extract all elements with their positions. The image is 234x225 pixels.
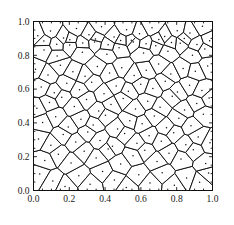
voronoi-seed-point [205,163,207,165]
voronoi-seed-point [82,42,84,44]
voronoi-seed-point [201,90,203,92]
x-tick-label: 1.0 [207,194,219,204]
voronoi-seed-point [167,50,169,52]
voronoi-seed-point [129,120,131,122]
voronoi-seed-point [43,49,45,51]
voronoi-seed-point [89,184,91,186]
y-tick-label: 0.2 [18,152,30,162]
voronoi-seed-point [101,26,103,28]
voronoi-seed-point [37,35,39,37]
voronoi-seed-point [133,75,135,77]
voronoi-seed-point [192,54,194,56]
voronoi-seed-point [84,76,86,78]
voronoi-seed-point [152,88,154,90]
voronoi-seed-point [159,106,161,108]
voronoi-seed-point [102,171,104,173]
voronoi-seed-point [130,40,132,42]
x-tick-label: 0.6 [135,194,147,204]
voronoi-seed-point [94,41,96,43]
y-tick-label: 0.0 [18,186,30,196]
voronoi-seed-point [184,109,186,111]
voronoi-seed-point [176,30,178,32]
voronoi-seed-point [138,174,140,176]
voronoi-seed-point [146,69,148,71]
voronoi-seed-point [79,89,81,91]
voronoi-seed-point [55,116,57,118]
voronoi-seed-point [64,186,66,188]
voronoi-seed-point [72,71,74,73]
voronoi-seed-point [161,172,163,174]
voronoi-seed-point [186,177,188,179]
voronoi-seed-point [40,86,42,88]
voronoi-seed-point [189,84,191,86]
voronoi-seed-point [63,37,65,39]
y-tick-label: 0.6 [18,84,30,94]
voronoi-seed-point [95,38,97,40]
voronoi-seed-point [75,141,77,143]
voronoi-seed-point [183,38,185,40]
voronoi-seed-point [66,83,68,85]
voronoi-seed-point [92,124,94,126]
voronoi-seed-point [49,102,51,104]
voronoi-seed-point [180,43,182,45]
voronoi-seed-point [180,158,182,160]
voronoi-seed-point [154,115,156,117]
x-tick-label: 0.8 [171,194,183,204]
voronoi-seed-point [82,52,84,54]
voronoi-seed-point [195,70,197,72]
voronoi-seed-point [58,154,60,156]
voronoi-seed-point [174,185,176,187]
voronoi-seed-point [61,96,63,98]
voronoi-seed-point [209,40,211,42]
voronoi-seed-point [91,81,93,83]
voronoi-seed-point [83,151,85,153]
voronoi-seed-point [193,149,195,151]
voronoi-seed-point [122,98,124,100]
voronoi-seed-point [87,131,89,133]
voronoi-seed-point [196,44,198,46]
voronoi-seed-point [164,81,166,83]
voronoi-seed-point [149,182,151,184]
voronoi-seed-point [166,127,168,129]
voronoi-seed-point [69,39,71,41]
voronoi-seed-point [209,142,211,144]
voronoi-seed-point [42,122,44,124]
voronoi-plot-figure: 0.00.20.40.60.81.00.00.20.40.60.81.0 [0,0,234,225]
voronoi-seed-point [62,134,64,136]
voronoi-seed-point [56,43,58,45]
voronoi-seed-point [67,126,69,128]
voronoi-seed-point [54,92,56,94]
y-tick-label: 0.8 [18,51,30,61]
voronoi-seed-point [50,144,52,146]
voronoi-seed-point [36,108,38,110]
voronoi-seed-point [88,34,90,36]
voronoi-seed-point [97,66,99,68]
voronoi-seed-point [208,172,210,174]
voronoi-seed-point [105,114,107,116]
y-tick-label: 1.0 [18,17,30,27]
voronoi-seed-point [118,47,120,49]
voronoi-seed-point [115,85,117,87]
voronoi-seed-point [185,144,187,146]
voronoi-seed-point [178,117,180,119]
voronoi-seed-point [207,65,209,67]
x-tick-label: 0.2 [63,194,75,204]
voronoi-seed-point [161,141,163,143]
voronoi-seed-point [74,106,76,108]
voronoi-seed-point [171,42,173,44]
voronoi-seed-point [173,132,175,134]
voronoi-seed-point [158,63,160,65]
voronoi-seed-point [168,152,170,154]
voronoi-seed-point [117,128,119,130]
voronoi-seed-point [35,68,37,70]
voronoi-seed-point [151,27,153,29]
voronoi-seed-point [80,119,82,121]
voronoi-seed-point [110,104,112,106]
voronoi-seed-point [135,108,137,110]
voronoi-seed-point [164,36,166,38]
voronoi-seed-point [143,52,145,54]
voronoi-plot-canvas: 0.00.20.40.60.81.00.00.20.40.60.81.0 [0,0,234,225]
voronoi-seed-point [124,133,126,135]
y-tick-label: 0.4 [18,118,30,128]
voronoi-seed-point [50,30,52,32]
